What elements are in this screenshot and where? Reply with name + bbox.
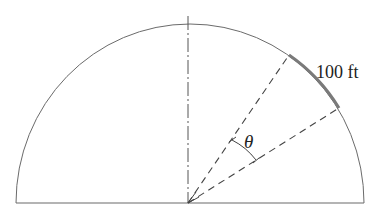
angle-tick-lower	[253, 158, 259, 163]
semicircle-diagram: θ 100 ft	[0, 0, 391, 211]
radius-line-upper	[188, 55, 289, 203]
semicircle-arc	[16, 24, 364, 203]
angle-label: θ	[244, 131, 253, 152]
arc-length-label: 100 ft	[316, 62, 359, 82]
arrowhead-icon	[188, 192, 199, 203]
radius-line-lower	[188, 108, 339, 203]
